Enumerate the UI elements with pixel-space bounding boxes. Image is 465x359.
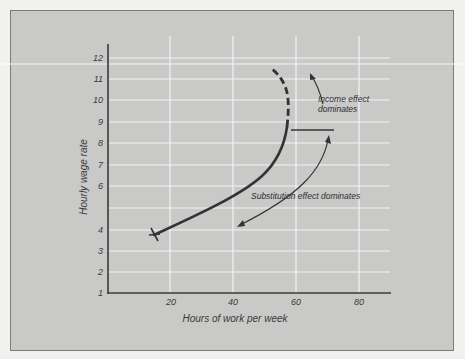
svg-text:7: 7 — [98, 160, 104, 170]
svg-text:6: 6 — [98, 181, 103, 191]
svg-text:8: 8 — [98, 138, 103, 148]
svg-text:80: 80 — [354, 297, 364, 307]
svg-text:3: 3 — [98, 246, 103, 256]
horizontal-gridlines — [108, 58, 390, 272]
svg-text:20: 20 — [165, 297, 176, 307]
y-tick-labels: 12 11 10 9 8 7 6 4 3 2 1 — [93, 53, 104, 298]
svg-text:2: 2 — [97, 267, 103, 277]
svg-text:4: 4 — [98, 225, 103, 235]
income-effect-label-line2: dominates — [318, 104, 358, 114]
svg-text:11: 11 — [94, 74, 103, 84]
svg-text:9: 9 — [98, 117, 103, 127]
x-tick-labels: 20 40 60 80 — [165, 297, 364, 307]
svg-text:60: 60 — [291, 297, 301, 307]
labor-supply-chart: 12 11 10 9 8 7 6 4 3 2 1 20 40 60 80 Hou… — [0, 0, 465, 359]
substitution-effect-label: Substitution effect dominates — [251, 191, 361, 201]
supply-curve-dashed — [272, 69, 288, 127]
svg-text:10: 10 — [93, 95, 103, 105]
svg-text:1: 1 — [98, 288, 103, 298]
x-axis-title: Hours of work per week — [182, 313, 288, 324]
svg-text:40: 40 — [228, 297, 238, 307]
y-axis-title: Hourly wage rate — [78, 139, 89, 215]
income-arrowhead-icon — [310, 73, 316, 80]
substitution-arrowhead-down-icon — [237, 220, 245, 227]
svg-text:12: 12 — [93, 53, 103, 63]
income-effect-label-line1: Income effect — [318, 94, 370, 104]
